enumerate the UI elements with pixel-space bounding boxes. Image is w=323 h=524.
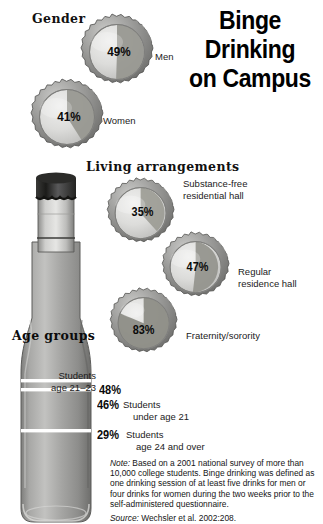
age-label-under-21-line1: Students [123, 399, 233, 411]
cap-value-men: 49% [107, 44, 130, 59]
cap-label-regular-residence-line1: Regular [238, 266, 297, 278]
age-label-under-21-line2: under age 21 [133, 411, 233, 423]
age-label-21-23: Students age 21–23 [36, 370, 96, 393]
age-label-under-21: Students under age 21 [123, 399, 233, 422]
cap-value-women: 41% [57, 109, 80, 124]
footnote-source-label: Source: [110, 513, 139, 523]
cap-label-regular-residence: Regular residence hall [238, 266, 297, 289]
age-value-24-over: 29% [97, 428, 119, 442]
cap-label-substance-free: Substance-free residential hall [183, 178, 247, 201]
section-header-age-groups: Age groups [12, 328, 95, 343]
footnote-note-label: Note: [110, 458, 130, 468]
title-line-3: on Campus [184, 64, 316, 93]
cap-label-substance-free-line1: Substance-free [183, 178, 247, 190]
cap-value-substance-free: 35% [132, 205, 154, 218]
beer-bottle-graphic [8, 168, 104, 524]
title-line-2: Drinking [184, 35, 316, 64]
bottle-cap-women: 41% [20, 77, 104, 161]
section-header-gender: Gender [32, 11, 85, 26]
age-label-24-over-line2: age 24 and over [136, 441, 246, 453]
age-label-21-23-line2: age 21–23 [36, 382, 96, 394]
age-label-24-over: Students age 24 and over [126, 429, 246, 452]
infographic-poster: Binge Drinking on Campus Gender Living a… [0, 0, 323, 524]
age-value-under-21: 46% [97, 398, 119, 412]
section-header-living-arrangements: Living arrangements [86, 159, 240, 174]
cap-label-substance-free-line2: residential hall [183, 190, 247, 202]
title-line-1: Binge [184, 6, 316, 35]
cap-label-men: Men [155, 51, 173, 63]
age-value-21-23: 48% [99, 383, 121, 397]
bottle-cap-fraternity-sorority: 83% [100, 286, 178, 364]
age-label-24-over-line1: Students [126, 429, 246, 441]
footnote-source-body: Wechsler et al. 2002:208. [139, 513, 236, 523]
footnote-note: Note: Based on a 2001 national survey of… [110, 458, 316, 509]
page-title: Binge Drinking on Campus [184, 6, 316, 93]
cap-label-women: Women [103, 115, 136, 127]
cap-label-fraternity-sorority: Fraternity/sorority [186, 330, 260, 342]
age-label-21-23-line1: Students [36, 370, 96, 382]
cap-label-regular-residence-line2: residence hall [238, 278, 297, 290]
cap-value-regular-residence: 47% [187, 260, 209, 273]
footnote-source: Source: Wechsler et al. 2002:208. [110, 513, 316, 523]
cap-value-fraternity: 83% [133, 324, 155, 337]
footnote-note-body: Based on a 2001 national survey of more … [110, 458, 314, 509]
